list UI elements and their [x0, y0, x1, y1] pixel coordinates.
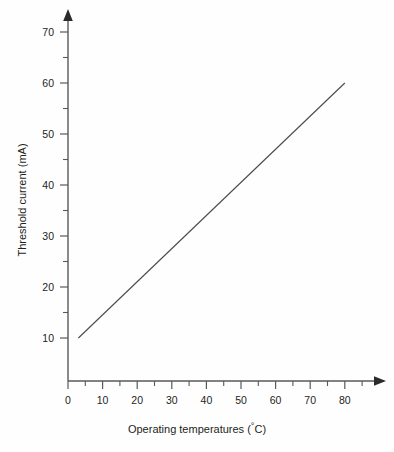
y-tick-label-30: 30	[32, 231, 54, 242]
arrow-up-icon	[63, 9, 73, 21]
y-tick-label-60: 60	[32, 78, 54, 89]
x-axis-major-ticks	[68, 381, 345, 389]
y-tick-label-10: 10	[32, 333, 54, 344]
y-axis-title: Threshold current (mA)	[16, 143, 28, 256]
x-tick-label-70: 70	[304, 395, 316, 406]
x-tick-label-60: 60	[270, 395, 282, 406]
x-axis-title-prefix: Operating temperatures (	[128, 423, 251, 435]
x-tick-label-10: 10	[97, 395, 109, 406]
y-tick-label-40: 40	[32, 180, 54, 191]
data-series-line	[78, 83, 344, 338]
x-axis-minor-ticks	[85, 381, 362, 386]
x-tick-label-50: 50	[235, 395, 247, 406]
x-tick-label-20: 20	[131, 395, 143, 406]
x-tick-label-80: 80	[339, 395, 351, 406]
x-tick-label-30: 30	[166, 395, 178, 406]
y-tick-label-50: 50	[32, 129, 54, 140]
y-axis-major-ticks	[60, 32, 68, 338]
x-axis-title: Operating temperatures (°C)	[128, 421, 266, 434]
chart-plot-area	[0, 0, 394, 452]
x-tick-label-0: 0	[65, 395, 71, 406]
chart-container: 0 10 20 30 40 50 60 70 80 10 20 30 40 50…	[0, 0, 394, 452]
arrow-right-icon	[374, 376, 386, 386]
x-axis-title-suffix: C)	[254, 423, 266, 435]
x-tick-label-40: 40	[201, 395, 213, 406]
y-tick-label-70: 70	[32, 27, 54, 38]
y-tick-label-20: 20	[32, 282, 54, 293]
